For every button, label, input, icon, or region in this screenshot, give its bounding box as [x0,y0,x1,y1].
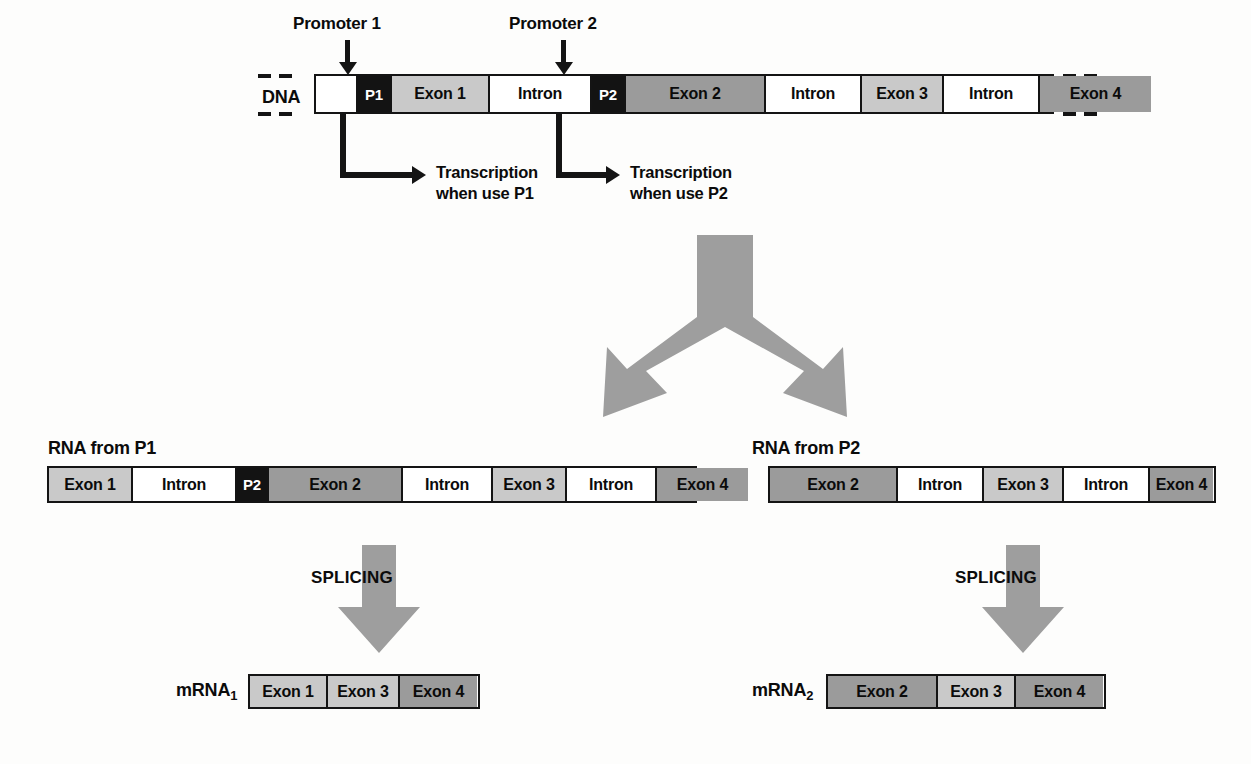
mrna-2-segment: Exon 2 [828,676,938,707]
mrna-1-segment-label: Exon 3 [337,683,388,701]
mrna-2-label-main: mRNA [752,680,806,700]
mrna-2-label-subscript: 2 [806,688,813,703]
rna-p2-segment-label: Intron [918,476,962,494]
rna-p1-segment-label: Intron [162,476,206,494]
mrna-2-segment-label: Exon 4 [1034,683,1085,701]
diagram-canvas: Promoter 1 Promoter 2 DNA P1Exon 1Intron… [0,0,1251,764]
transcription-p2-connector-vertical [556,112,562,175]
rna-p1-segment: Exon 1 [49,468,133,501]
rna-p2-label: RNA from P2 [752,438,860,459]
rna-p2-segment: Exon 2 [770,468,898,501]
rna-p1-segment: Intron [133,468,237,501]
rna-p1-segment-label: Exon 3 [503,476,554,494]
mrna-2-label: mRNA2 [752,680,813,704]
mrna-1-label-main: mRNA [176,680,230,700]
rna-p1-segment: Intron [567,468,657,501]
dna-segment-label: Exon 2 [669,85,720,103]
splicing-arrow-left [334,545,424,655]
mrna-1-segment: Exon 1 [250,676,328,707]
mrna-2-strand: Exon 2Exon 3Exon 4 [826,674,1106,709]
rna-p1-segment-label: Intron [589,476,633,494]
dna-strand: P1Exon 1IntronP2Exon 2IntronExon 3Intron… [314,74,1054,114]
mrna-1-segment-label: Exon 1 [262,683,313,701]
rna-p1-segment-label: P2 [243,476,261,493]
mrna-1-segment: Exon 3 [328,676,400,707]
transcription-p1-connector-vertical [340,112,346,175]
dna-segment: Exon 3 [862,76,944,112]
rna-p2-segment: Exon 4 [1150,468,1213,501]
transcription-p1-arrow-head [412,166,426,184]
dna-segment-label: Exon 3 [876,85,927,103]
rna-p2-segment-label: Exon 3 [997,476,1048,494]
rna-p2-segment-label: Exon 2 [807,476,858,494]
rna-p1-segment-label: Exon 4 [677,476,728,494]
promoter-1-label: Promoter 1 [293,14,381,34]
rna-p1-segment: Intron [403,468,493,501]
transcription-p2-label-line2: when use P2 [630,184,728,203]
dna-segment-label: Intron [969,85,1013,103]
mrna-2-segment: Exon 4 [1016,676,1103,707]
rna-p1-strand: Exon 1IntronP2Exon 2IntronExon 3IntronEx… [47,466,697,503]
dna-segment: P2 [592,76,626,112]
splicing-label-left: SPLICING [311,568,393,588]
rna-p1-segment: Exon 3 [493,468,567,501]
mrna-2-segment-label: Exon 2 [856,683,907,701]
dna-segment [316,76,358,112]
dna-label: DNA [262,87,300,108]
rna-p2-segment-label: Exon 4 [1156,476,1207,494]
dna-segment-label: P1 [365,86,383,103]
dna-segment: Exon 4 [1040,76,1151,112]
rna-p2-segment-label: Intron [1084,476,1128,494]
promoter-2-label: Promoter 2 [509,14,597,34]
dna-segment-label: Intron [791,85,835,103]
dna-segment: Intron [766,76,862,112]
rna-p2-segment: Intron [898,468,984,501]
dna-segment: Intron [944,76,1040,112]
transcription-p1-label-line1: Transcription [436,163,538,182]
transcription-p2-label-line1: Transcription [630,163,732,182]
transcription-p2-arrow-head [606,166,620,184]
rna-p1-segment-label: Exon 2 [309,476,360,494]
rna-p1-segment: Exon 2 [269,468,403,501]
splicing-label-right: SPLICING [955,568,1037,588]
branching-arrow [585,235,865,420]
rna-p1-segment: Exon 4 [657,468,748,501]
transcription-p1-label-line2: when use P1 [436,184,534,203]
rna-p2-segment: Intron [1064,468,1150,501]
mrna-1-label-subscript: 1 [230,688,237,703]
rna-p1-segment-label: Exon 1 [64,476,115,494]
rna-p2-segment: Exon 3 [984,468,1064,501]
rna-p1-segment-label: Intron [425,476,469,494]
mrna-2-segment-label: Exon 3 [950,683,1001,701]
mrna-2-segment: Exon 3 [938,676,1016,707]
dna-segment: P1 [358,76,392,112]
dna-segment: Exon 1 [392,76,490,112]
mrna-1-strand: Exon 1Exon 3Exon 4 [248,674,480,709]
dna-segment-label: P2 [599,86,617,103]
dna-segment-label: Exon 1 [414,85,465,103]
dna-segment: Exon 2 [626,76,766,112]
rna-p1-segment: P2 [237,468,269,501]
rna-p1-label: RNA from P1 [48,438,156,459]
dna-segment-label: Exon 4 [1070,85,1121,103]
transcription-p1-connector-horizontal [340,172,414,178]
dna-segment-label: Intron [518,85,562,103]
transcription-p2-connector-horizontal [556,172,608,178]
dna-segment: Intron [490,76,592,112]
mrna-1-segment: Exon 4 [400,676,477,707]
mrna-1-segment-label: Exon 4 [413,683,464,701]
mrna-1-label: mRNA1 [176,680,237,704]
rna-p2-strand: Exon 2IntronExon 3IntronExon 4 [768,466,1216,503]
splicing-arrow-right [978,545,1068,655]
